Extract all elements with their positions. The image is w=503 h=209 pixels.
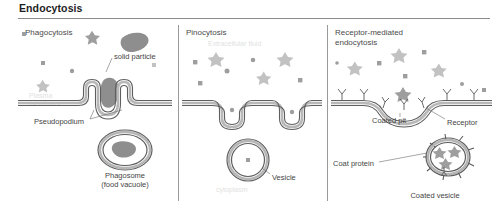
leader-solid-particle (106, 58, 112, 72)
phagosome-vesicle (98, 130, 152, 170)
endocytosis-figure: Endocytosis Phagocytosis Pinocytosis Rec… (0, 0, 503, 209)
leader-coat-protein (379, 153, 427, 162)
diagram-artwork (0, 0, 503, 209)
solid-particle-engulfed (100, 78, 119, 108)
ligand-in-pit (395, 87, 412, 102)
plasma-membrane-pinocytosis (182, 101, 322, 130)
label-coat-protein: Coat protein (333, 159, 374, 168)
label-receptor: Receptor (447, 118, 477, 127)
rme-specks (335, 48, 486, 92)
pinocytotic-vesicle (227, 139, 269, 181)
solid-particle-free (121, 33, 149, 52)
label-phagosome: Phagosome (food vacuole) (88, 171, 162, 189)
receptor-in-pit (400, 99, 408, 110)
label-coated-vesicle: Coated vesicle (398, 191, 472, 200)
label-coated-pit: Coated pit (372, 116, 406, 125)
coated-vesicle (423, 134, 474, 180)
label-pseudopodium: Pseudopodium (34, 117, 84, 126)
label-vesicle: Vesicle (272, 173, 296, 182)
label-solid-particle: solid particle (114, 52, 156, 61)
